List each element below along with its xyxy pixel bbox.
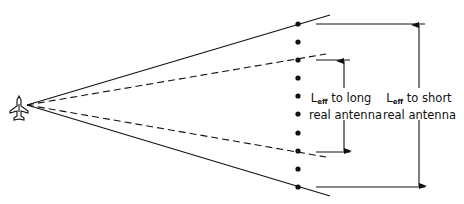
leff-long-antenna-label: Leff to long real antenna	[309, 92, 373, 122]
antenna-element	[295, 148, 300, 153]
antenna-element	[295, 93, 300, 98]
antenna-element-array	[295, 21, 300, 189]
label-text: to short	[403, 91, 451, 105]
label-line-2: real antenna	[383, 109, 455, 122]
antenna-element	[295, 111, 300, 116]
aircraft-icon	[10, 96, 28, 120]
antenna-element	[295, 184, 300, 189]
antenna-element	[295, 166, 300, 171]
outer-beam-bottom-line	[27, 105, 330, 196]
label-text: to long	[328, 91, 372, 105]
antenna-element	[295, 39, 300, 44]
leff-short-antenna-label: Leff to short real antenna	[383, 92, 455, 122]
label-subscript: eff	[317, 98, 327, 106]
inner-beam-top-line	[27, 54, 326, 105]
outer-beam-top-line	[27, 15, 330, 105]
inner-beam-bottom-line	[27, 105, 326, 157]
label-line-1: Leff to long	[309, 92, 373, 109]
label-line-2: real antenna	[309, 109, 373, 122]
label-subscript: eff	[393, 98, 403, 106]
antenna-element	[295, 57, 300, 62]
label-line-1: Leff to short	[383, 92, 455, 109]
antenna-element	[295, 75, 300, 80]
antenna-element	[295, 21, 300, 26]
antenna-element	[295, 130, 300, 135]
